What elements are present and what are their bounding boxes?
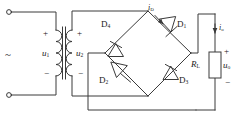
transformer-secondary-coil (66, 30, 72, 76)
secondary-voltage-label: u2 (76, 49, 83, 59)
wire-secondary-bottom (72, 76, 148, 96)
diode-d4-label: D4 (101, 20, 110, 30)
primary-voltage-label: u1 (42, 49, 49, 59)
primary-minus-sign: − (44, 69, 49, 78)
bridge-edge-bottom-left (105, 53, 148, 96)
load-resistor-body (209, 52, 221, 78)
diode-d4-symbol (109, 42, 124, 57)
diode-current-label: iD (148, 4, 154, 13)
bridge-edge-top-left (105, 11, 148, 53)
transformer-primary-coil (56, 30, 62, 76)
primary-plus-sign: + (43, 29, 48, 38)
diode-d3-label: D3 (179, 76, 188, 86)
bridge-edge-top-right (148, 11, 191, 53)
secondary-minus-sign: − (78, 69, 83, 78)
output-minus-sign: − (225, 78, 230, 87)
wire-bridge-right-to-top-rail (191, 14, 215, 53)
secondary-plus-sign: + (77, 29, 82, 38)
output-current-label: io (219, 24, 224, 33)
diode-d1-label: D1 (177, 20, 186, 30)
diode-d2-label: D2 (99, 76, 108, 86)
diode-d2-symbol (111, 63, 131, 83)
current-arrow-id (155, 16, 163, 25)
ac-source-symbol: ~ (5, 49, 11, 60)
load-resistor-label: RL (191, 60, 200, 70)
wire-primary-bottom (12, 76, 57, 95)
output-plus-sign: + (224, 47, 229, 56)
output-voltage-label: uo (223, 61, 230, 71)
diode-d3-symbol (164, 65, 179, 80)
diode-d1-symbol (160, 17, 178, 37)
ac-terminal-top-circle (7, 10, 12, 15)
ac-terminal-bottom-circle (7, 93, 12, 98)
wire-primary-top (12, 12, 57, 30)
circuit-diagram: ~ + u1 − + u2 − D4 D1 D2 D3 iD io RL + u… (0, 0, 233, 122)
